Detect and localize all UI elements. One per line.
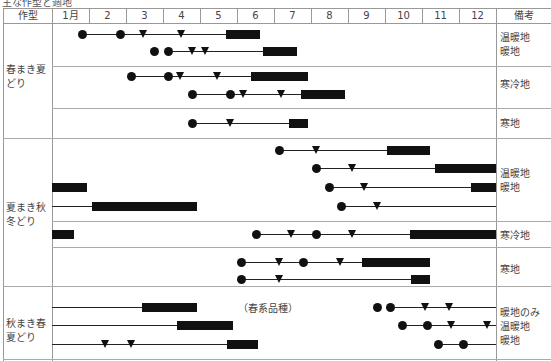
group-label-line: 秋まき春: [6, 317, 46, 331]
sowing-dot-icon: [127, 72, 136, 81]
planting-triangle-icon: [373, 202, 381, 210]
grid-line: [3, 359, 551, 360]
sowing-dot-icon: [398, 321, 407, 330]
planting-triangle-icon: [239, 90, 247, 98]
planting-triangle-icon: [275, 275, 283, 283]
sowing-dot-icon: [337, 202, 346, 211]
header-month: 3: [126, 8, 163, 23]
planting-triangle-icon: [226, 119, 234, 127]
grid-line: [3, 8, 4, 361]
harvest-bar: [142, 303, 197, 312]
grid-line: [496, 8, 497, 361]
header-month: 11: [422, 8, 459, 23]
note-spring-warm: 温暖地 暖地: [500, 31, 530, 59]
sowing-dot-icon: [459, 340, 468, 349]
planting-triangle-icon: [275, 258, 283, 266]
timeline-line: [167, 51, 263, 52]
harvest-bar: [92, 202, 197, 211]
group-label-line: 冬どり: [6, 215, 46, 229]
planting-triangle-icon: [287, 230, 295, 238]
note-line: 暖地: [500, 181, 530, 195]
sowing-dot-icon: [434, 340, 443, 349]
sowing-dot-icon: [386, 303, 395, 312]
grid-line: [3, 23, 551, 24]
harvest-bar: [387, 146, 430, 155]
planting-triangle-icon: [201, 47, 209, 55]
sowing-dot-icon: [116, 30, 125, 39]
planting-triangle-icon: [127, 340, 135, 348]
harvest-bar: [52, 183, 87, 192]
planting-triangle-icon: [483, 321, 491, 329]
header-month: 2: [89, 8, 126, 23]
header-type: 作型: [3, 8, 52, 23]
grid-line: [52, 108, 551, 109]
note-spring-cold: 寒冷地: [500, 78, 530, 92]
grid-line: [52, 247, 551, 248]
harvest-bar: [226, 30, 260, 39]
timeline-line: [192, 123, 289, 124]
harvest-bar: [289, 119, 308, 128]
timeline-line: [131, 76, 251, 77]
timeline-line: [256, 234, 410, 235]
note-line: 温暖地: [500, 167, 530, 181]
header-month: 7: [274, 8, 311, 23]
grid-line: [52, 66, 551, 67]
planting-triangle-icon: [445, 303, 453, 311]
planting-triangle-icon: [277, 90, 285, 98]
planting-triangle-icon: [312, 146, 320, 154]
timeline-line: [341, 206, 496, 207]
header-month: 1月: [52, 8, 89, 23]
harvest-bar: [471, 183, 496, 192]
harvest-bar: [301, 90, 345, 99]
timeline-line: [329, 187, 471, 188]
harvest-bar: [362, 258, 430, 267]
grid-line: [52, 221, 551, 222]
planting-triangle-icon: [336, 258, 344, 266]
timeline-line: [192, 94, 301, 95]
sowing-dot-icon: [226, 90, 235, 99]
sowing-dot-icon: [312, 230, 321, 239]
harvest-bar: [435, 164, 496, 173]
sowing-dot-icon: [373, 303, 382, 312]
sowing-dot-icon: [164, 47, 173, 56]
group-label-spring: 春まき夏 どり: [6, 63, 46, 91]
note-spring-coldland: 寒地: [500, 117, 520, 131]
note-line: 暖地のみ: [500, 306, 540, 320]
sowing-dot-icon: [252, 230, 261, 239]
sowing-dot-icon: [237, 258, 246, 267]
timeline-line: [52, 206, 92, 207]
timeline-line: [241, 279, 411, 280]
harvest-bar: [410, 230, 496, 239]
planting-triangle-icon: [447, 321, 455, 329]
timeline-line: [82, 34, 226, 35]
note-summer-cold: 寒冷地: [500, 229, 530, 243]
timeline-line: [52, 307, 142, 308]
note-line: 温暖地: [500, 31, 530, 45]
group-label-line: 夏まき秋: [6, 201, 46, 215]
header-notes: 備考: [496, 8, 551, 23]
harvest-bar: [251, 72, 308, 81]
note-line: 暖地: [500, 45, 530, 59]
sowing-dot-icon: [78, 30, 87, 39]
sowing-dot-icon: [150, 47, 159, 56]
note-line: 温暖地: [500, 320, 540, 334]
harvest-bar: [263, 47, 297, 56]
planting-triangle-icon: [101, 340, 109, 348]
timeline-line: [52, 325, 177, 326]
group-label-line: 夏どり: [6, 331, 46, 345]
sowing-dot-icon: [164, 72, 173, 81]
sowing-dot-icon: [188, 119, 197, 128]
harvest-bar: [227, 340, 258, 349]
planting-triangle-icon: [213, 72, 221, 80]
timeline-line: [389, 307, 496, 308]
group-label-autumn: 秋まき春 夏どり: [6, 317, 46, 345]
grid-line: [3, 286, 551, 287]
timeline-line: [279, 150, 387, 151]
header-month: 8: [311, 8, 348, 23]
sowing-dot-icon: [423, 321, 432, 330]
note-autumn: 暖地のみ 温暖地 暖地: [500, 306, 540, 348]
planting-triangle-icon: [177, 30, 185, 38]
timeline-line: [52, 344, 227, 345]
harvest-bar: [52, 230, 74, 239]
planting-triangle-icon: [348, 164, 356, 172]
